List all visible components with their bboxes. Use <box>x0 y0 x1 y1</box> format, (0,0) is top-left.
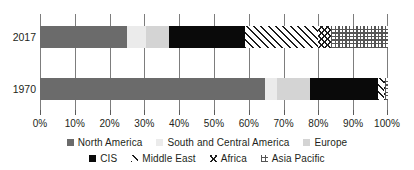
segment-1970-north-america <box>40 78 265 100</box>
legend-swatch-europe-icon <box>303 139 310 146</box>
x-tick-label-70: 70% <box>273 118 293 129</box>
stacked-bar-chart: 2017 1970 0% 10% 20% 30% 40% 50% 60% 70%… <box>0 0 414 170</box>
bar-2017 <box>40 26 388 48</box>
tick-mark-100 <box>387 110 388 115</box>
tick-mark-80 <box>318 110 319 115</box>
plot-area <box>40 14 388 110</box>
bar-1970 <box>40 78 388 100</box>
x-tick-label-60: 60% <box>239 118 259 129</box>
tick-mark-30 <box>144 110 145 115</box>
segment-2017-asia-pacific <box>331 26 388 48</box>
legend-label-cis: CIS <box>100 153 117 164</box>
segment-1970-asia-pacific <box>385 78 388 100</box>
legend-row-2: CIS Middle East Africa Asia Pacific <box>0 150 414 166</box>
legend-swatch-south-and-central-america-icon <box>156 139 163 146</box>
legend-item-asia-pacific[interactable]: Asia Pacific <box>261 153 325 164</box>
legend-item-north-america[interactable]: North America <box>67 137 143 148</box>
segment-2017-africa <box>318 26 330 48</box>
legend-item-europe[interactable]: Europe <box>303 137 347 148</box>
category-label-2017: 2017 <box>0 31 36 43</box>
segment-1970-cis <box>310 78 378 100</box>
x-tick-label-100: 100% <box>374 118 400 129</box>
x-tick-label-40: 40% <box>169 118 189 129</box>
x-tick-label-20: 20% <box>99 118 119 129</box>
legend-row-1: North America South and Central America … <box>0 134 414 150</box>
x-tick-label-50: 50% <box>204 118 224 129</box>
legend-label-europe: Europe <box>314 137 347 148</box>
tick-mark-20 <box>110 110 111 115</box>
x-tick-label-80: 80% <box>308 118 328 129</box>
segment-2017-north-america <box>40 26 127 48</box>
tick-mark-50 <box>214 110 215 115</box>
segment-2017-cis <box>169 26 246 48</box>
x-tick-label-90: 90% <box>343 118 363 129</box>
segment-2017-middle-east <box>245 26 318 48</box>
legend-item-middle-east[interactable]: Middle East <box>131 153 195 164</box>
legend-label-north-america: North America <box>78 137 143 148</box>
chart-legend: North America South and Central America … <box>0 134 414 166</box>
tick-mark-10 <box>75 110 76 115</box>
tick-mark-0 <box>40 110 41 115</box>
legend-swatch-cis-icon <box>89 155 96 162</box>
legend-item-south-and-central-america[interactable]: South and Central America <box>156 137 289 148</box>
tick-mark-40 <box>179 110 180 115</box>
segment-2017-europe <box>146 26 169 48</box>
x-tick-label-0: 0% <box>33 118 48 129</box>
legend-label-africa: Africa <box>221 153 247 164</box>
tick-mark-90 <box>353 110 354 115</box>
x-tick-label-10: 10% <box>65 118 85 129</box>
x-tick-label-30: 30% <box>134 118 154 129</box>
legend-label-asia-pacific: Asia Pacific <box>272 153 325 164</box>
segment-2017-south-and-central-america <box>127 26 146 48</box>
tick-mark-70 <box>284 110 285 115</box>
legend-swatch-asia-pacific-icon <box>261 155 268 162</box>
legend-item-cis[interactable]: CIS <box>89 153 117 164</box>
segment-1970-south-and-central-america <box>265 78 277 100</box>
legend-swatch-africa-icon <box>210 155 217 162</box>
legend-label-south-and-central-america: South and Central America <box>167 137 289 148</box>
legend-item-africa[interactable]: Africa <box>210 153 247 164</box>
legend-swatch-middle-east-icon <box>131 155 138 162</box>
legend-swatch-north-america-icon <box>67 139 74 146</box>
segment-1970-europe <box>277 78 310 100</box>
legend-label-middle-east: Middle East <box>142 153 195 164</box>
category-label-1970: 1970 <box>0 83 36 95</box>
tick-mark-60 <box>249 110 250 115</box>
